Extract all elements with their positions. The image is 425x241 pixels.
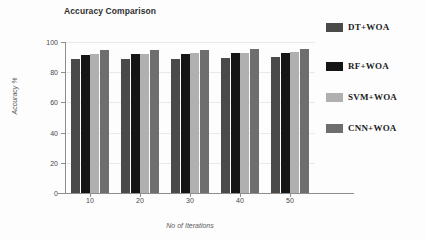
bar <box>231 53 240 193</box>
y-tick-label: 20 <box>34 159 58 166</box>
bar <box>71 59 80 193</box>
x-tick-mark <box>190 193 191 197</box>
x-axis-line <box>58 193 354 194</box>
bar <box>281 53 290 193</box>
x-tick-label: 10 <box>86 197 94 204</box>
bar <box>140 54 149 193</box>
bar <box>250 49 259 193</box>
x-tick-label: 30 <box>186 197 194 204</box>
legend-swatch-icon <box>326 93 343 102</box>
bar <box>200 50 209 193</box>
bar <box>81 55 90 193</box>
y-tick-label: 60 <box>34 99 58 106</box>
legend-swatch-icon <box>326 23 343 32</box>
x-tick-label: 40 <box>236 197 244 204</box>
legend-label: RF+WOA <box>348 61 389 71</box>
plot-wrapper: 020406080100 1020304050 Accuracy % No of… <box>0 0 425 241</box>
legend-item-dt-woa[interactable]: DT+WOA <box>326 22 389 32</box>
bar <box>190 53 199 193</box>
bar <box>221 58 230 193</box>
legend-item-rf-woa[interactable]: RF+WOA <box>326 61 389 71</box>
legend-label: SVM+WOA <box>348 92 397 102</box>
bar-group <box>121 42 159 193</box>
plot-area <box>65 42 315 193</box>
bar-group <box>271 42 309 193</box>
legend-label: CNN+WOA <box>348 123 397 133</box>
legend-label: DT+WOA <box>348 22 389 32</box>
x-tick-mark <box>90 193 91 197</box>
chart-page: Accuracy Comparison 020406080100 1020304… <box>0 0 425 241</box>
y-tick-mark <box>61 193 65 194</box>
bar-group <box>171 42 209 193</box>
bar-group <box>71 42 109 193</box>
y-tick-label: 80 <box>34 69 58 76</box>
x-tick-mark <box>290 193 291 197</box>
y-tick-label: 100 <box>34 39 58 46</box>
bar <box>181 54 190 193</box>
legend-item-svm-woa[interactable]: SVM+WOA <box>326 92 397 102</box>
bar <box>171 59 180 193</box>
bar-group <box>221 42 259 193</box>
bar <box>300 49 309 193</box>
bar <box>290 52 299 193</box>
bar <box>150 50 159 193</box>
bar <box>90 54 99 193</box>
x-tick-label: 50 <box>286 197 294 204</box>
bar <box>100 50 109 193</box>
bar <box>240 53 249 193</box>
legend-item-cnn-woa[interactable]: CNN+WOA <box>326 123 397 133</box>
legend-swatch-icon <box>326 124 343 133</box>
x-axis-title: No of Iterations <box>166 222 213 229</box>
x-tick-mark <box>240 193 241 197</box>
y-tick-label: 40 <box>34 129 58 136</box>
legend-swatch-icon <box>326 62 343 71</box>
y-axis-title: Accuracy % <box>11 78 18 115</box>
x-tick-mark <box>140 193 141 197</box>
bar <box>121 59 130 193</box>
bar <box>271 57 280 193</box>
x-tick-label: 20 <box>136 197 144 204</box>
y-tick-label: 0 <box>34 190 58 197</box>
bar <box>131 54 140 193</box>
